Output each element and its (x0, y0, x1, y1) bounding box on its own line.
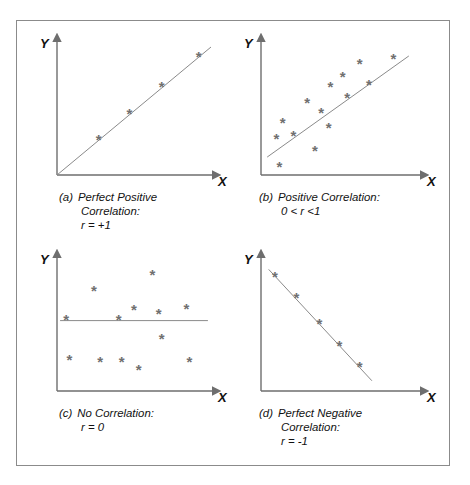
panel-c-caption-line-1: No Correlation: (77, 407, 154, 419)
data-point-marker: * (126, 105, 132, 122)
data-point-marker: * (136, 361, 142, 378)
y-axis-label: Y (244, 36, 253, 51)
data-point-marker: * (119, 353, 125, 370)
data-point-marker: * (159, 78, 165, 95)
x-axis-label: X (218, 174, 227, 189)
data-point-marker: * (366, 76, 372, 93)
data-point-marker: * (116, 311, 122, 328)
data-point-marker: * (91, 282, 97, 299)
y-axis-label: Y (244, 252, 253, 267)
data-point-marker: * (66, 351, 72, 368)
panel-a-caption: (a)Perfect Positive Correlation: r = +1 (59, 190, 157, 233)
data-point-marker: * (391, 50, 397, 67)
panel-d-caption-line-1: Perfect Negative (278, 407, 362, 419)
data-point-marker: * (187, 353, 193, 370)
panel-c-caption-line-2: r = 0 (59, 420, 154, 434)
data-points: **** (96, 48, 202, 148)
panel-d-tag: (d) (259, 407, 273, 419)
panel-a-caption-line-1: Perfect Positive (78, 191, 157, 203)
panel-b-plot: ************** (239, 27, 449, 187)
data-point-marker: * (318, 104, 324, 121)
data-point-marker: * (96, 131, 102, 148)
trend-line-group (57, 47, 211, 175)
data-point-marker: * (277, 158, 283, 175)
data-points: ************** (273, 50, 396, 175)
data-point-marker: * (304, 94, 310, 111)
data-point-marker: * (272, 268, 278, 285)
panel-d-caption: (d)Perfect Negative Correlation: r = -1 (259, 406, 362, 449)
trend-line (267, 56, 409, 157)
panel-c-tag: (c) (59, 407, 72, 419)
data-point-marker: * (327, 78, 333, 95)
panel-b-caption: (b)Positive Correlation: 0 < r <1 (259, 190, 380, 218)
trend-line-group (267, 56, 409, 157)
x-axis-label: X (427, 390, 436, 405)
data-point-marker: * (337, 337, 343, 354)
data-point-marker: * (293, 289, 299, 306)
data-points: ***** (272, 268, 363, 376)
x-axis-label: X (427, 174, 436, 189)
data-point-marker: * (131, 301, 137, 318)
data-point-marker: * (344, 89, 350, 106)
data-point-marker: * (312, 142, 318, 159)
panel-d-caption-line-2: Correlation: (259, 420, 362, 434)
data-point-marker: * (196, 48, 202, 65)
data-point-marker: * (326, 119, 332, 136)
panel-c-plot: ************* (35, 243, 245, 403)
x-axis-label: X (218, 390, 227, 405)
y-axis-label: Y (40, 252, 49, 267)
panel-a-caption-line-2: Correlation: (59, 204, 157, 218)
panel-b-tag: (b) (259, 191, 273, 203)
data-point-marker: * (150, 266, 156, 283)
panel-d-caption-line-3: r = -1 (259, 434, 362, 448)
y-axis-label: Y (40, 36, 49, 51)
panel-a-perfect-positive: **** Y X (a)Perfect Positive Correlation… (35, 27, 245, 245)
data-point-marker: * (280, 114, 286, 131)
panel-c-no-correlation: ************* Y X (c)No Correlation: r =… (35, 243, 245, 461)
panel-b-positive-correlation: ************** Y X (b)Positive Correlati… (239, 27, 449, 245)
data-point-marker: * (340, 68, 346, 85)
figure-border: **** Y X (a)Perfect Positive Correlation… (16, 20, 450, 466)
panel-b-caption-line-1: Positive Correlation: (278, 191, 380, 203)
data-point-marker: * (273, 130, 279, 147)
data-point-marker: * (357, 55, 363, 72)
data-point-marker: * (97, 353, 103, 370)
data-point-marker: * (183, 300, 189, 317)
panel-a-plot: **** (35, 27, 245, 187)
data-point-marker: * (290, 127, 296, 144)
data-point-marker: * (159, 330, 165, 347)
panel-d-plot: ***** (239, 243, 449, 403)
data-point-marker: * (357, 358, 363, 375)
panel-d-perfect-negative: ***** Y X (d)Perfect Negative Correlatio… (239, 243, 449, 461)
panel-a-caption-line-3: r = +1 (59, 218, 157, 232)
data-point-marker: * (156, 305, 162, 322)
data-point-marker: * (317, 315, 323, 332)
panel-a-tag: (a) (59, 191, 73, 203)
data-point-marker: * (63, 311, 69, 328)
panel-c-caption: (c)No Correlation: r = 0 (59, 406, 154, 434)
data-points: ************* (63, 266, 192, 378)
trend-line (57, 47, 211, 175)
panel-b-caption-line-2: 0 < r <1 (259, 204, 380, 218)
